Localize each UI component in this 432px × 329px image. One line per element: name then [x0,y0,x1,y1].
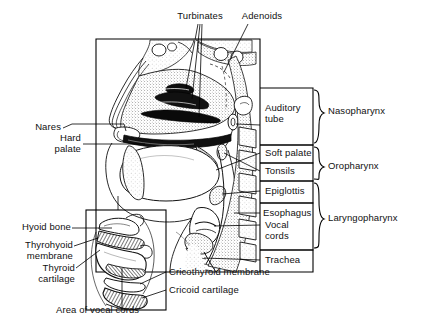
label-trachea: Trachea [265,255,300,266]
sinus-cell [168,43,177,51]
epiglottis [210,186,226,204]
label-soft-palate: Soft palate [265,148,312,159]
region-braces [314,90,324,248]
label-hard-palate: Hard palate [0,133,81,154]
label-adenoids: Adenoids [222,11,302,22]
label-thyroid-cartilage: Thyroid cartilage [0,263,75,284]
figure-canvas: Turbinates Adenoids Nares Hard palate Au… [0,0,432,329]
label-auditory-tube: Auditory tube [265,103,301,124]
larynx-inset-drawing [91,214,154,311]
frontal-sinus-cavity [152,44,166,56]
label-nasopharynx: Nasopharynx [328,106,385,117]
label-esophagus: Esophagus [263,208,311,219]
label-hyoid-bone: Hyoid bone [0,222,71,233]
label-tonsils: Tonsils [265,166,295,177]
label-cricothyroid-membrane: Cricothyroid membrane [169,267,270,278]
label-oropharynx: Oropharynx [328,161,379,172]
label-cricoid-cartilage: Cricoid cartilage [169,285,239,296]
label-epiglottis: Epiglottis [265,186,305,197]
sphenoid-sinus [214,48,228,61]
label-area-of-vocal-cords: Area of vocal cords [56,305,139,316]
label-nares: Nares [0,122,61,133]
label-laryngopharynx: Laryngopharynx [328,213,398,224]
label-thyrohyoid-membrane: Thyrohyoid membrane [0,240,73,261]
label-vocal-cords: Vocal cords [265,220,289,241]
